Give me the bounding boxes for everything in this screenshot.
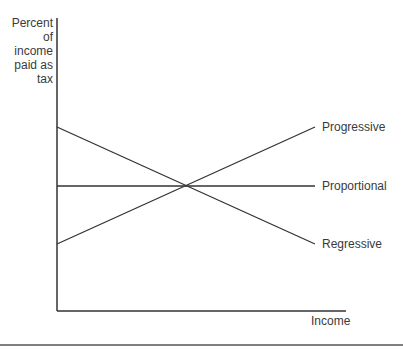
regressive-label: Regressive — [322, 237, 382, 251]
proportional-label: Proportional — [322, 179, 387, 193]
progressive-label: Progressive — [322, 120, 385, 134]
x-axis-label: Income — [311, 314, 350, 328]
